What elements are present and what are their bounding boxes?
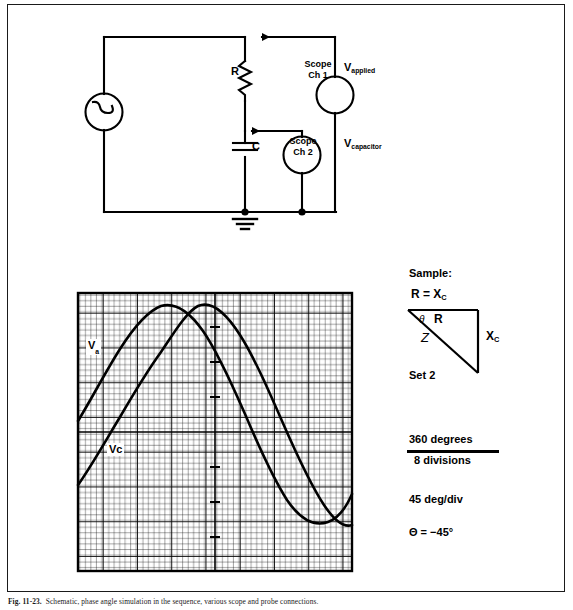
scope-ch1-label: Scope Ch 1 <box>298 60 338 80</box>
triangle-hypotenuse-label: Z <box>421 331 429 344</box>
figure-border <box>7 4 565 592</box>
capacitor-label: C <box>252 141 260 152</box>
sample-condition-subscript: C <box>441 293 446 302</box>
triangle-opposite-symbol: X <box>486 329 494 343</box>
figure-caption-text: Schematic, phase angle simulation in the… <box>46 597 319 606</box>
fraction-bar <box>407 450 499 453</box>
resistor-label: R <box>231 66 239 77</box>
v-capacitor-label: Vcapacitor <box>344 138 382 149</box>
triangle-angle-label: θ <box>419 315 424 325</box>
trace-va-subscript: a <box>95 348 99 355</box>
figure-caption: Fig. 11-23.Schematic, phase angle simula… <box>8 597 318 606</box>
triangle-adjacent-label: R <box>434 313 443 325</box>
v-applied-label: Vapplied <box>344 62 375 73</box>
v-capacitor-subscript: capacitor <box>351 143 381 150</box>
triangle-opposite-label: XC <box>486 330 499 342</box>
sample-heading: Sample: <box>409 268 452 279</box>
scope-ch1-line1: Scope <box>298 60 338 69</box>
fraction-numerator: 360 degrees <box>409 434 473 445</box>
figure-page: R C Scope Ch 1 Scope Ch 2 Vapplied Vcapa… <box>0 0 573 610</box>
triangle-opposite-subscript: C <box>494 335 499 344</box>
scope-ch2-label: Scope Ch 2 <box>283 137 323 157</box>
v-applied-subscript: applied <box>351 67 375 74</box>
phase-result: Θ = −45° <box>409 527 453 538</box>
trace-label-v-applied: Va <box>86 339 101 355</box>
set-label: Set 2 <box>409 370 435 381</box>
scale-result: 45 deg/div <box>409 494 463 505</box>
sample-condition-text: R = X <box>411 287 441 301</box>
sample-condition: R = XC <box>411 288 447 300</box>
fraction-denominator: 8 divisions <box>414 455 471 466</box>
figure-number: Fig. 11-23. <box>8 597 42 606</box>
scope-ch2-line2: Ch 2 <box>283 148 323 157</box>
scope-ch2-line1: Scope <box>283 137 323 146</box>
trace-label-v-capacitor: Vc <box>107 443 124 456</box>
scope-ch1-line2: Ch 1 <box>298 71 338 80</box>
